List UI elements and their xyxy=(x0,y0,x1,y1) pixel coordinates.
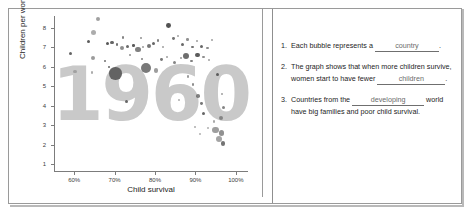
question-item-2: 2.The graph shows that when more childre… xyxy=(281,61,456,85)
bubble-point xyxy=(157,39,159,41)
bubble-point xyxy=(73,70,76,73)
y-tick-label: 6 xyxy=(43,64,46,70)
bubble-point xyxy=(212,127,218,133)
bubble-point xyxy=(222,106,225,109)
y-tick-label: 2 xyxy=(43,142,46,148)
bubble-point xyxy=(91,30,96,35)
x-tick-label: 100% xyxy=(228,177,243,183)
question-number: 2. xyxy=(281,61,287,73)
y-axis-label: Children per woman xyxy=(18,0,27,59)
bubble-point xyxy=(126,45,129,48)
bubble-point xyxy=(96,17,100,21)
bubble-point xyxy=(69,52,72,55)
bubble-point xyxy=(116,43,119,46)
question-text-before: Each bubble represents a xyxy=(291,41,375,50)
bubble-point xyxy=(132,44,135,47)
bubble-point xyxy=(216,73,219,76)
x-tick-label: 60% xyxy=(68,177,80,183)
bubble-point xyxy=(109,67,121,79)
bubble-point xyxy=(207,127,209,129)
bubble-point xyxy=(166,56,168,58)
x-tick-label: 80% xyxy=(149,177,161,183)
plot-area: 1960 12345678 60%70%80%90%100% xyxy=(54,16,248,172)
y-tick: 3 xyxy=(51,125,55,126)
bubble-point xyxy=(140,37,142,39)
y-tick: 4 xyxy=(51,106,55,107)
bubble-point xyxy=(195,53,200,58)
bubble-point xyxy=(200,102,203,105)
bubble-point xyxy=(120,46,124,50)
bubble-point xyxy=(122,36,124,38)
y-tick-label: 5 xyxy=(43,83,46,89)
bubble-point xyxy=(196,40,198,42)
bubble-point xyxy=(108,66,110,68)
bubble-point xyxy=(177,35,179,37)
question-item-1: 1.Each bubble represents a country. xyxy=(281,40,456,52)
bubble-point xyxy=(200,45,203,48)
bubble-point xyxy=(160,58,163,61)
bubble-point xyxy=(91,71,94,74)
y-tick-label: 3 xyxy=(43,122,46,128)
question-number: 3. xyxy=(281,94,287,106)
bubble-point xyxy=(221,93,223,95)
bubble-point xyxy=(191,46,194,49)
y-tick: 5 xyxy=(51,86,55,87)
y-tick: 2 xyxy=(51,145,55,146)
bubble-layer xyxy=(54,16,248,172)
bubble-point xyxy=(187,75,189,77)
bubble-point xyxy=(208,59,210,61)
x-tick-label: 90% xyxy=(189,177,201,183)
bubble-point xyxy=(181,43,184,46)
worksheet-page: Children per woman Child survival 1960 1… xyxy=(0,0,471,214)
bubble-point xyxy=(141,58,144,61)
question-number: 1. xyxy=(281,40,287,52)
bubble-point xyxy=(154,68,158,72)
answer-blank-developing[interactable]: developing xyxy=(352,95,424,106)
y-tick-label: 8 xyxy=(43,25,46,31)
x-tick xyxy=(236,171,237,175)
answer-blank-children[interactable]: children xyxy=(377,74,445,85)
bubble-point xyxy=(180,57,182,59)
bubble-point xyxy=(192,83,195,86)
y-tick: 7 xyxy=(51,47,55,48)
bubble-point xyxy=(142,46,144,48)
bubble-point xyxy=(213,120,216,123)
panel-divider xyxy=(272,9,273,203)
bubble-point xyxy=(162,46,164,48)
bubble-point xyxy=(219,116,223,120)
answer-blank-country[interactable]: country xyxy=(375,41,439,52)
bubble-point xyxy=(172,37,175,40)
y-tick: 8 xyxy=(51,28,55,29)
x-axis-label: Child survival xyxy=(54,185,248,194)
bubble-point xyxy=(186,38,188,40)
y-tick: 6 xyxy=(51,67,55,68)
bubble-point xyxy=(91,56,96,61)
bubble-point xyxy=(221,141,226,146)
chart-panel: Children per woman Child survival 1960 1… xyxy=(9,9,271,203)
y-axis-line xyxy=(54,16,55,172)
y-tick: 1 xyxy=(51,164,55,165)
x-tick xyxy=(195,171,196,175)
bubble-point xyxy=(110,41,114,45)
bubble-point xyxy=(211,39,213,41)
x-axis-line xyxy=(54,171,248,172)
bubble-point xyxy=(125,100,128,103)
y-tick-label: 7 xyxy=(43,44,46,50)
bubble-point xyxy=(196,94,200,98)
questions-panel: 1.Each bubble represents a country. 2.Th… xyxy=(281,9,456,203)
bubble-point xyxy=(129,54,131,56)
frame-shadow xyxy=(462,9,464,205)
bubble-point xyxy=(87,40,90,43)
bubble-point xyxy=(199,133,201,135)
bubble-point xyxy=(152,42,155,45)
bubble-point xyxy=(104,60,106,62)
bubble-point xyxy=(106,42,109,45)
bubble-point xyxy=(183,53,189,59)
bubble-point xyxy=(202,56,204,58)
question-text-after: . xyxy=(439,41,441,50)
bubble-point xyxy=(135,47,140,52)
bubble-point xyxy=(206,47,208,49)
x-tick xyxy=(74,171,75,175)
question-item-3: 3.Countries from the developing world ha… xyxy=(281,94,456,118)
x-tick-label: 70% xyxy=(109,177,121,183)
